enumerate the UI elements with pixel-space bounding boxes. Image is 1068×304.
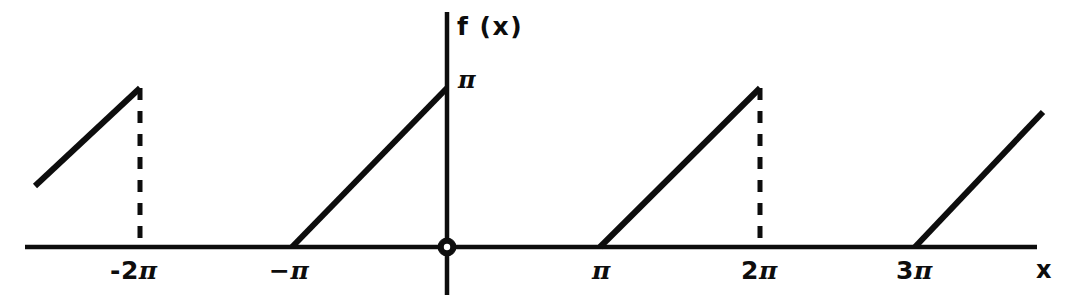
curve-ramp-center [292,88,447,247]
x-tick-label-three-pi: 3π [896,258,933,283]
x-tick-two-pi-prefix: 2 [741,256,759,285]
curve-ramp-left-clipped [35,88,140,186]
x-tick-minus-pi-pi-glyph: π [290,256,309,285]
y-axis-label: f (x) [457,14,523,39]
x-axis-label: x [1036,258,1051,282]
x-tick-pi-pi-glyph: π [592,256,611,285]
x-tick-two-pi-pi-glyph: π [759,256,778,285]
x-tick-label-minus-two-pi: -2π [110,258,158,283]
x-tick-three-pi-pi-glyph: π [914,256,933,285]
x-tick-label-two-pi: 2π [741,258,778,283]
sawtooth-function-figure: f (x) π -2π −π π 2π 3π x [0,0,1068,304]
x-tick-label-minus-pi: −π [269,258,309,283]
x-tick-label-pi: π [592,258,611,283]
x-tick-minus-two-pi-pi-glyph: π [139,256,158,285]
curve-ramp-far-right-clipped [915,112,1043,247]
y-peak-value-label: π [458,68,476,92]
x-tick-minus-pi-prefix: − [269,256,290,285]
curve-ramp-right [600,88,760,247]
x-tick-three-pi-prefix: 3 [896,256,914,285]
origin-dot-inner-hole [444,244,450,250]
x-tick-minus-two-pi-prefix: -2 [110,256,139,285]
